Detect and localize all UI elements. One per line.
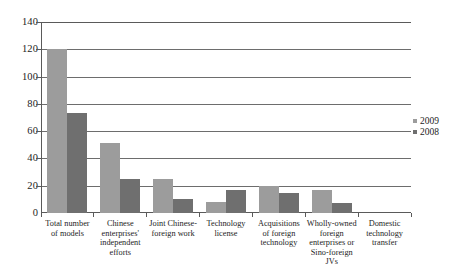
- bar-2008: [120, 179, 140, 213]
- y-tick-label-80: 80: [0, 98, 38, 109]
- x-tick: [41, 213, 94, 217]
- y-tick-label-120: 120: [0, 43, 38, 54]
- legend-label: 2008: [420, 127, 439, 137]
- x-tick: [252, 213, 305, 217]
- x-axis-ticks: [41, 213, 411, 217]
- legend-item-2008: 2008: [413, 127, 439, 137]
- bar-2008: [67, 113, 87, 213]
- bar-group-acquisitions-of-foreign-technology: [252, 22, 305, 213]
- y-tick-label-140: 140: [0, 16, 38, 27]
- bar-group-joint-chinese-foreign-work: [147, 22, 200, 213]
- bar-2009: [312, 190, 332, 213]
- bar-2008: [332, 203, 352, 213]
- x-axis-label: Total number of models: [41, 219, 94, 266]
- x-tick: [358, 213, 411, 217]
- x-axis-label: Technology license: [200, 219, 253, 266]
- y-tick-label-100: 100: [0, 71, 38, 82]
- legend-label: 2009: [420, 116, 439, 126]
- y-tick-label-60: 60: [0, 125, 38, 136]
- y-tick-label-20: 20: [0, 180, 38, 191]
- bar-group-total-number-of-models: [41, 22, 94, 213]
- bar-group-chinese-independent-efforts: [94, 22, 147, 213]
- x-axis-label: Domestic technology transfer: [358, 219, 411, 266]
- x-tick: [305, 213, 358, 217]
- bar-2008: [226, 190, 246, 213]
- legend-item-2009: 2009: [413, 116, 439, 126]
- bar-2009: [259, 186, 279, 213]
- bar-groups: [41, 22, 411, 213]
- bar-2008: [279, 193, 299, 213]
- legend: 2009 2008: [413, 116, 439, 137]
- x-axis-label: Chinese enterprises' independent efforts: [94, 219, 147, 266]
- y-tick-label-0: 0: [0, 207, 38, 218]
- x-tick: [200, 213, 253, 217]
- bar-group-wholly-owned-foreign-enterprises: [305, 22, 358, 213]
- legend-swatch-icon: [413, 119, 417, 123]
- x-tick: [94, 213, 147, 217]
- bar-2009: [153, 179, 173, 213]
- x-axis-label: Joint Chinese-foreign work: [147, 219, 200, 266]
- bar-group-technology-license: [200, 22, 253, 213]
- bar-group-domestic-technology-transfer: [358, 22, 411, 213]
- bar-chart: 140 120 100 80 60 40 20 0: [0, 0, 463, 266]
- x-tick: [147, 213, 200, 217]
- x-axis-labels: Total number of models Chinese enterpris…: [41, 219, 411, 266]
- x-axis-label: Wholly-owned foreign enterprises or Sino…: [305, 219, 358, 266]
- y-tick-label-40: 40: [0, 152, 38, 163]
- bar-2009: [206, 202, 226, 213]
- x-axis-label: Acquisitions of foreign technology: [252, 219, 305, 266]
- bar-2009: [100, 143, 120, 213]
- bar-2008: [173, 199, 193, 213]
- bar-2009: [47, 49, 67, 213]
- legend-swatch-icon: [413, 130, 417, 134]
